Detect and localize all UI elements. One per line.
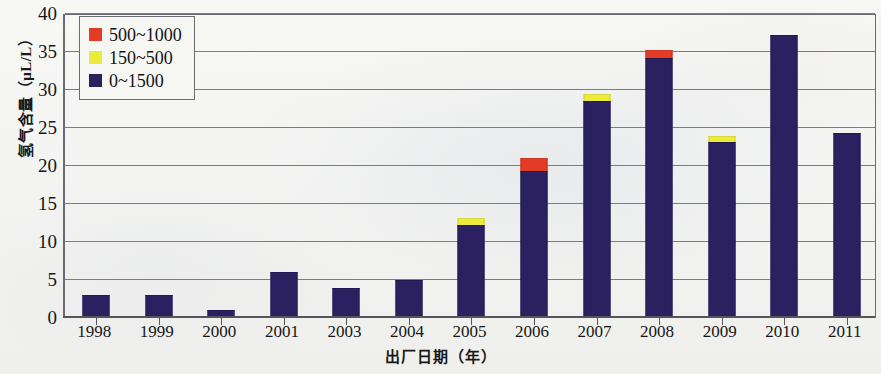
bar-stack[interactable] <box>458 218 485 318</box>
x-tick-label: 2004 <box>390 322 424 342</box>
bar-segment <box>646 50 673 58</box>
bar-slot <box>690 15 753 318</box>
bar-stack[interactable] <box>708 136 735 318</box>
gridline-40 <box>65 13 875 14</box>
bar-segment <box>708 142 735 318</box>
bar-segment <box>395 280 422 318</box>
bar-segment <box>521 158 548 172</box>
x-axis-tick-labels: 1998199920002001200320042005200620072008… <box>63 322 876 346</box>
x-tick-label: 2003 <box>327 322 361 342</box>
bar-stack[interactable] <box>646 50 673 318</box>
bar-segment <box>458 225 485 318</box>
x-tick-label: 2010 <box>765 322 799 342</box>
bar-stack[interactable] <box>395 280 422 318</box>
legend-swatch-icon <box>89 51 102 64</box>
x-axis-title: 出厂日期（年） <box>0 345 881 366</box>
y-tick-label: 10 <box>17 231 57 253</box>
bar-stack[interactable] <box>83 295 110 318</box>
bar-segment <box>646 58 673 318</box>
x-tick-label: 1999 <box>140 322 174 342</box>
bar-stack[interactable] <box>145 295 172 318</box>
x-axis-baseline <box>63 316 875 318</box>
bar-stack[interactable] <box>270 272 297 318</box>
y-tick-label: 30 <box>17 79 57 101</box>
x-tick-label: 1998 <box>77 322 111 342</box>
x-tick-label: 2006 <box>515 322 549 342</box>
x-tick-label: 2005 <box>453 322 487 342</box>
bar-segment <box>333 288 360 318</box>
x-tick-label: 2000 <box>202 322 236 342</box>
bar-slot <box>315 15 378 318</box>
bar-slot <box>503 15 566 318</box>
bar-slot <box>753 15 816 318</box>
legend-item[interactable]: 0~1500 <box>89 69 182 92</box>
chart-legend: 500~1000150~5000~1500 <box>79 16 195 100</box>
y-tick-label: 15 <box>17 193 57 215</box>
bar-slot <box>440 15 503 318</box>
bar-stack[interactable] <box>521 158 548 318</box>
x-tick-label: 2007 <box>578 322 612 342</box>
legend-item[interactable]: 500~1000 <box>89 23 182 46</box>
legend-swatch-icon <box>89 74 102 87</box>
bar-slot <box>628 15 691 318</box>
hydrogen-content-bar-chart: 氢气含量（μL/L） 0510152025303540 199819992000… <box>0 0 881 374</box>
legend-swatch-icon <box>89 28 102 41</box>
x-tick-label: 2011 <box>828 322 861 342</box>
bar-slot <box>378 15 441 318</box>
bar-stack[interactable] <box>833 133 860 318</box>
bar-stack[interactable] <box>583 94 610 318</box>
bar-segment <box>833 133 860 318</box>
bar-segment <box>458 218 485 225</box>
y-tick-label: 35 <box>17 41 57 63</box>
y-tick-label: 25 <box>17 117 57 139</box>
bar-segment <box>771 35 798 318</box>
bar-segment <box>145 295 172 318</box>
legend-item[interactable]: 150~500 <box>89 46 182 69</box>
bar-segment <box>708 136 735 143</box>
x-tick-label: 2009 <box>703 322 737 342</box>
legend-item-label: 0~1500 <box>109 72 164 90</box>
bar-slot <box>565 15 628 318</box>
x-tick-label: 2001 <box>265 322 299 342</box>
bar-segment <box>521 171 548 318</box>
bar-slot <box>253 15 316 318</box>
bar-stack[interactable] <box>333 288 360 318</box>
y-tick-label: 40 <box>17 3 57 25</box>
legend-item-label: 150~500 <box>109 49 173 67</box>
y-tick-label: 5 <box>17 269 57 291</box>
bar-segment <box>83 295 110 318</box>
bar-stack[interactable] <box>771 35 798 318</box>
bar-segment <box>583 94 610 101</box>
bar-segment <box>270 272 297 318</box>
bar-slot <box>190 15 253 318</box>
bar-segment <box>583 101 610 318</box>
x-tick-label: 2008 <box>640 322 674 342</box>
y-tick-label: 20 <box>17 155 57 177</box>
y-tick-label: 0 <box>17 307 57 329</box>
bar-slot <box>815 15 878 318</box>
legend-item-label: 500~1000 <box>109 26 182 44</box>
